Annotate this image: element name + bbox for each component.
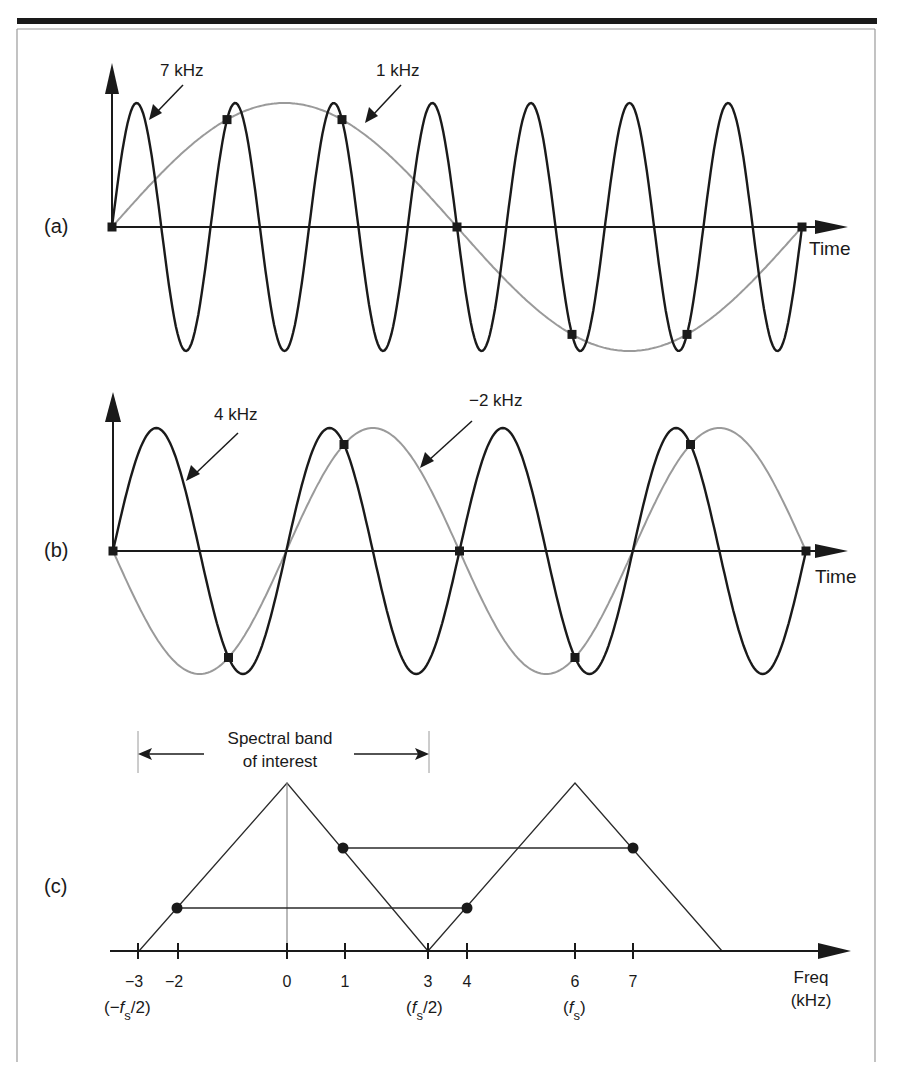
tick-neg3: −3 — [125, 973, 143, 990]
tick-7: 7 — [629, 973, 638, 990]
pointer-1khz — [372, 85, 401, 116]
pointer-neg-2khz — [428, 421, 472, 461]
label-neg-2khz: −2 kHz — [469, 391, 522, 410]
sample-marker — [802, 547, 811, 556]
sublabel-half-fs: (fs/2) — [406, 998, 443, 1023]
pointer-neg-2khz-arrowhead-icon — [420, 452, 434, 468]
panel-a: (a) Time 7 kHz 1 kHz — [44, 61, 851, 351]
sample-marker — [340, 440, 349, 449]
panel-a-label: (a) — [44, 215, 68, 237]
label-1khz: 1 kHz — [376, 61, 419, 80]
panel-a-y-arrow-icon — [105, 63, 119, 94]
sample-marker — [109, 547, 118, 556]
aliasing-figure: (a) Time 7 kHz 1 kHz (b) Time 4 kHz −2 k… — [0, 0, 903, 1076]
panel-a-x-arrow-icon — [815, 220, 848, 234]
spectrum-replica-triangle — [428, 783, 722, 951]
label-7khz: 7 kHz — [160, 61, 203, 80]
freq-axis-label-line2: (kHz) — [791, 991, 832, 1010]
panel-b-x-arrow-icon — [815, 544, 848, 558]
sample-marker — [108, 223, 117, 232]
panel-b-y-arrow-icon — [105, 392, 121, 422]
sample-marker — [571, 653, 580, 662]
point-4khz — [462, 903, 473, 914]
freq-tick-labels: −3 −2 0 1 3 4 6 7 — [125, 973, 638, 990]
sample-marker — [568, 330, 577, 339]
tick-1: 1 — [341, 973, 350, 990]
tick-3: 3 — [424, 973, 433, 990]
point-1khz — [338, 843, 349, 854]
sample-marker — [455, 547, 464, 556]
pointer-4khz-arrowhead-icon — [186, 465, 200, 481]
sublabel-neg-half-fs: (−fs/2) — [104, 998, 151, 1023]
spectrum-baseband-triangle — [139, 783, 428, 951]
sample-marker — [798, 223, 807, 232]
panel-c: (c) Spectral band of interest — [44, 729, 851, 1023]
freq-axis-label-line1: Freq — [794, 968, 829, 987]
sample-marker — [224, 653, 233, 662]
tick-6: 6 — [571, 973, 580, 990]
pointer-4khz — [195, 433, 238, 474]
sample-marker — [683, 330, 692, 339]
pointer-7khz-arrowhead-icon — [149, 104, 162, 120]
sublabel-fs: (fs) — [563, 998, 586, 1023]
point-neg2khz — [172, 903, 183, 914]
panel-b-label: (b) — [44, 539, 68, 561]
sample-marker — [453, 223, 462, 232]
freq-axis-arrow-icon — [818, 943, 851, 959]
tick-neg2: −2 — [165, 973, 183, 990]
sample-marker — [686, 440, 695, 449]
pointer-7khz — [156, 85, 183, 113]
tick-4: 4 — [463, 973, 472, 990]
top-rule — [17, 18, 877, 24]
point-7khz — [628, 843, 639, 854]
band-label-line1: Spectral band — [228, 729, 333, 748]
sample-marker — [223, 115, 232, 124]
sample-marker — [338, 115, 347, 124]
tick-0: 0 — [283, 973, 292, 990]
panel-c-label: (c) — [44, 875, 67, 897]
panel-b-x-label: Time — [815, 566, 857, 587]
label-4khz: 4 kHz — [214, 405, 257, 424]
panel-a-x-label: Time — [809, 238, 851, 259]
band-label-line2: of interest — [243, 752, 318, 771]
pointer-1khz-arrowhead-icon — [365, 107, 378, 123]
panel-b: (b) Time 4 kHz −2 kHz — [44, 391, 857, 674]
